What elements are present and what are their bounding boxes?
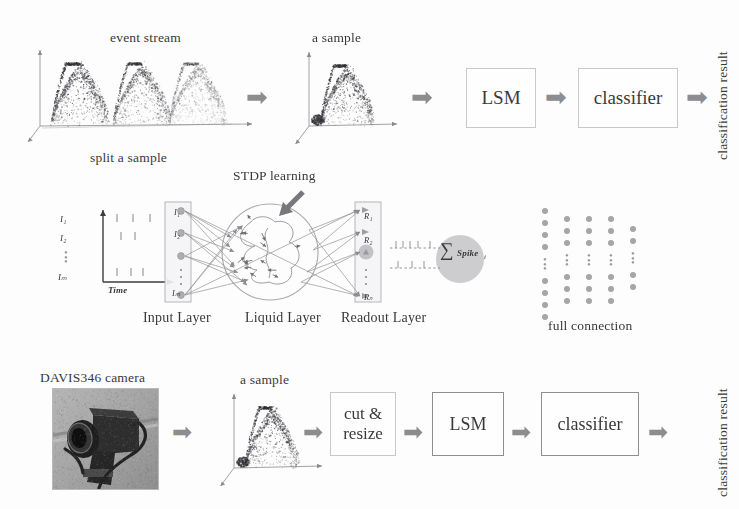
connection-dot — [586, 240, 592, 246]
readout-node-label-2: R₂ — [364, 235, 373, 245]
top-classification-result-label: classification result — [715, 51, 731, 160]
connection-dot — [586, 286, 592, 292]
connection-dot — [608, 286, 614, 292]
cut-resize-label-line1: cut & — [344, 404, 382, 424]
input-spike-label-2: I₂ — [60, 233, 67, 243]
connection-dot — [586, 298, 592, 304]
top-classifier-box[interactable]: classifier — [578, 68, 678, 128]
arrow-right-icon: ➡ — [403, 418, 423, 446]
connection-dot — [542, 302, 548, 308]
input-layer-label: Input Layer — [143, 310, 211, 326]
connection-ellipsis: ••• — [562, 253, 572, 267]
connection-dot — [564, 298, 570, 304]
connection-ellipsis: ••• — [540, 257, 550, 271]
connection-dot — [608, 274, 614, 280]
input-spike-ellipsis: ••• — [60, 250, 72, 264]
connection-dot — [564, 216, 570, 222]
input-spike-label-1: I₁ — [60, 214, 67, 224]
input-node-label-1: I₁ — [174, 207, 180, 217]
connection-ellipsis: ••• — [584, 253, 594, 267]
connection-dot — [608, 228, 614, 234]
bottom-lsm-box[interactable]: LSM — [432, 392, 504, 456]
connection-dot — [586, 274, 592, 280]
davis-camera-label: DAVIS346 camera — [40, 370, 145, 386]
connection-dot — [564, 228, 570, 234]
connection-dot — [542, 244, 548, 250]
connection-dot — [630, 284, 636, 290]
connection-ellipsis: ••• — [606, 253, 616, 267]
arrow-right-icon: ➡ — [648, 418, 668, 446]
arrow-right-icon: ➡ — [172, 418, 192, 446]
connection-dot — [542, 278, 548, 284]
stdp-learning-label: STDP learning — [233, 168, 316, 184]
arrow-right-icon: ➡ — [411, 82, 433, 113]
connection-ellipsis: ••• — [628, 251, 638, 265]
connection-dot — [608, 240, 614, 246]
split-a-sample-label: split a sample — [90, 150, 167, 166]
connection-dot — [630, 238, 636, 244]
connection-dot — [608, 298, 614, 304]
event-stream-plot — [18, 40, 258, 145]
connection-dot — [564, 240, 570, 246]
connection-dot — [630, 272, 636, 278]
top-lsm-box[interactable]: LSM — [466, 68, 536, 128]
full-connection-grid: ••••••••••••••• — [540, 208, 640, 318]
input-node-label-2: I₂ — [174, 229, 180, 239]
bottom-classifier-box[interactable]: classifier — [541, 392, 639, 456]
connection-dot — [542, 232, 548, 238]
connection-dot — [608, 216, 614, 222]
figure-canvas: event stream split a sample ➡ a sample ➡… — [0, 0, 739, 509]
readout-node-label-1: R₁ — [364, 211, 373, 221]
cut-resize-label-line2: resize — [343, 424, 383, 444]
top-classifier-label: classifier — [594, 87, 663, 109]
connection-dot — [542, 290, 548, 296]
connection-dot — [586, 228, 592, 234]
top-lsm-label: LSM — [481, 87, 520, 109]
top-sample-plot — [285, 40, 403, 145]
arrow-right-icon: ➡ — [511, 418, 531, 446]
input-node-label-m: Iₘ — [172, 288, 180, 298]
spike-label: Spike — [457, 248, 479, 258]
arrow-right-icon: ➡ — [303, 418, 323, 446]
readout-node-label-n: Rₙ — [364, 292, 373, 302]
connection-dot — [564, 286, 570, 292]
readout-layer-label: Readout Layer — [341, 310, 426, 326]
connection-dot — [586, 216, 592, 222]
summation-sigma-icon: ∑ — [440, 239, 454, 261]
time-axis-label: Time — [108, 285, 127, 295]
cut-resize-box[interactable]: cut & resize — [330, 392, 396, 456]
bottom-lsm-label: LSM — [449, 414, 486, 435]
arrow-right-icon: ➡ — [246, 82, 268, 113]
davis-camera-photo — [52, 388, 159, 490]
arrow-right-icon: ➡ — [686, 82, 708, 113]
bottom-classification-result-label: classification result — [715, 388, 731, 497]
connection-dot — [630, 226, 636, 232]
connection-dot — [564, 274, 570, 280]
liquid-layer-label: Liquid Layer — [245, 310, 321, 326]
connection-dot — [542, 208, 548, 214]
full-connection-label: full connection — [548, 318, 632, 334]
bottom-classifier-label: classifier — [558, 414, 623, 435]
input-spike-label-m: Iₘ — [58, 272, 67, 282]
connection-dot — [542, 220, 548, 226]
arrow-right-icon: ➡ — [545, 82, 567, 113]
spike-subscript: i — [484, 253, 486, 261]
